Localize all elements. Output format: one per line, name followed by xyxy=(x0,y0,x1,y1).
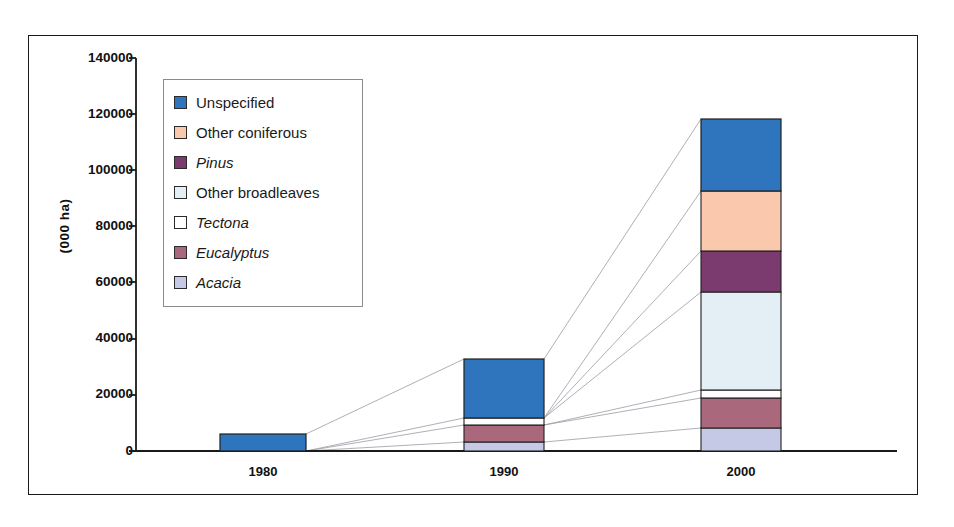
legend-item-other-broadleaves[interactable]: Other broadleaves xyxy=(174,177,354,207)
legend-item-acacia[interactable]: Acacia xyxy=(174,267,354,297)
legend-item-eucalyptus[interactable]: Eucalyptus xyxy=(174,237,354,267)
bar-2000-eucalyptus xyxy=(701,398,781,428)
legend-label-unspecified: Unspecified xyxy=(196,95,274,110)
y-axis-ticks xyxy=(129,58,136,451)
legend-label-pinus: Pinus xyxy=(196,155,234,170)
legend-label-tectona: Tectona xyxy=(196,215,249,230)
legend-item-unspecified[interactable]: Unspecified xyxy=(174,87,354,117)
leader-lines-1980-1990 xyxy=(306,359,464,451)
leader-lines-1990-2000 xyxy=(544,119,701,442)
x-tick-1990: 1990 xyxy=(459,464,549,479)
bar-2000-tectona xyxy=(701,390,781,398)
legend-swatch-tectona xyxy=(174,216,187,229)
bar-1990-unspecified xyxy=(464,359,544,418)
legend-label-acacia: Acacia xyxy=(196,275,241,290)
bar-2000[interactable] xyxy=(701,119,781,451)
legend-item-pinus[interactable]: Pinus xyxy=(174,147,354,177)
legend-label-other-coniferous: Other coniferous xyxy=(196,125,307,140)
bar-2000-pinus xyxy=(701,251,781,292)
plot-area: (000 ha) 140000 120000 100000 80000 6000… xyxy=(29,36,919,496)
legend-swatch-pinus xyxy=(174,156,187,169)
x-tick-1980: 1980 xyxy=(218,464,308,479)
legend-label-other-broadleaves: Other broadleaves xyxy=(196,185,319,200)
bar-2000-other-broadleaves xyxy=(701,292,781,390)
bar-1980-unspecified xyxy=(220,434,306,451)
chart-legend[interactable]: Unspecified Other coniferous Pinus Other… xyxy=(163,79,363,307)
chart-figure-frame: (000 ha) 140000 120000 100000 80000 6000… xyxy=(28,35,918,495)
legend-swatch-eucalyptus xyxy=(174,246,187,259)
bar-2000-other-coniferous xyxy=(701,191,781,251)
legend-swatch-acacia xyxy=(174,276,187,289)
bar-1990-eucalyptus xyxy=(464,425,544,442)
legend-item-tectona[interactable]: Tectona xyxy=(174,207,354,237)
x-tick-2000: 2000 xyxy=(696,464,786,479)
legend-swatch-unspecified xyxy=(174,96,187,109)
bar-2000-acacia xyxy=(701,428,781,451)
legend-item-other-coniferous[interactable]: Other coniferous xyxy=(174,117,354,147)
bar-1980[interactable] xyxy=(220,434,306,451)
bar-1990-tectona xyxy=(464,418,544,425)
legend-swatch-other-broadleaves xyxy=(174,186,187,199)
legend-label-eucalyptus: Eucalyptus xyxy=(196,245,269,260)
bar-1990-acacia xyxy=(464,442,544,451)
legend-swatch-other-coniferous xyxy=(174,126,187,139)
bar-2000-unspecified xyxy=(701,119,781,191)
bar-1990[interactable] xyxy=(464,359,544,451)
